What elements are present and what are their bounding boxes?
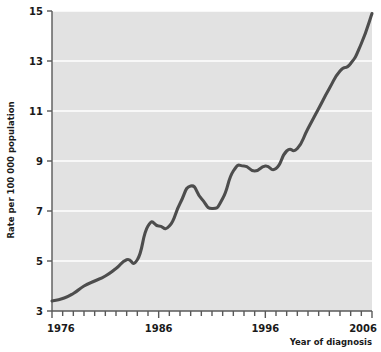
x-tick-label: 1976 bbox=[47, 323, 75, 334]
x-axis-tick-labels: 1976198619962006 bbox=[47, 323, 377, 334]
y-axis-ticks: 3579111315 bbox=[29, 6, 52, 317]
y-axis-title: Rate per 100 000 population bbox=[6, 101, 16, 238]
y-tick-label: 9 bbox=[36, 156, 43, 167]
x-axis-title: Year of diagnosis bbox=[289, 337, 372, 347]
y-tick-label: 3 bbox=[36, 306, 43, 317]
x-tick-label: 1986 bbox=[145, 323, 173, 334]
x-axis-minor-ticks bbox=[52, 311, 372, 318]
x-tick-label: 2006 bbox=[349, 323, 377, 334]
y-tick-label: 13 bbox=[29, 56, 43, 67]
chart-figure: 3579111315 1976198619962006 Rate per 100… bbox=[0, 0, 381, 352]
y-tick-label: 7 bbox=[36, 206, 43, 217]
line-chart: 3579111315 1976198619962006 Rate per 100… bbox=[0, 0, 381, 352]
y-tick-label: 11 bbox=[29, 106, 43, 117]
x-tick-label: 1996 bbox=[251, 323, 279, 334]
y-tick-label: 15 bbox=[29, 6, 43, 17]
y-tick-label: 5 bbox=[36, 256, 43, 267]
